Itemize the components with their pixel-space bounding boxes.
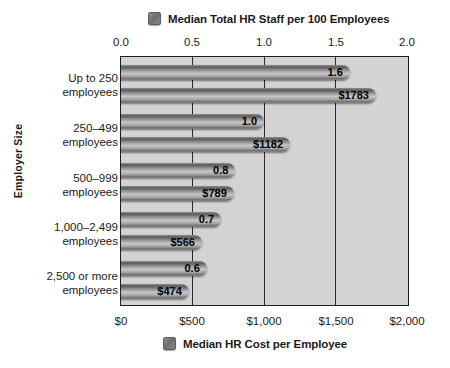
top-tick-3: 1.5 (328, 36, 344, 48)
category-label-3: 1,000–2,499 employees (23, 221, 118, 248)
category-label-1: 250–499 employees (23, 122, 118, 149)
bar-s0-c0 (120, 65, 350, 80)
legend-swatch-icon (163, 337, 176, 350)
top-axis-ticks: 0.0 0.5 1.0 1.5 2.0 (0, 36, 450, 50)
bar-value-label-s0-c1: 1.0 (242, 114, 264, 129)
chart-root: Median Total HR Staff per 100 Employees … (0, 0, 450, 368)
bar-value-label-s0-c2: 0.8 (213, 163, 235, 178)
category-label-4-line1: 2,500 or more (23, 270, 118, 284)
bottom-tick-1: $500 (179, 315, 205, 327)
bar-value-label-s0-c3: 0.7 (199, 212, 221, 227)
bar-value-label-s0-c4: 0.6 (185, 261, 207, 276)
legend-bottom-label: Median HR Cost per Employee (183, 338, 347, 350)
y-axis-title: Employer Size (12, 101, 24, 221)
bar-value-label-s1-c2: $789 (202, 186, 233, 201)
bar-value-label-s1-c0: $1783 (338, 88, 376, 103)
top-tick-1: 0.5 (184, 36, 200, 48)
category-label-0-line1: Up to 250 (23, 72, 118, 86)
category-label-0-line2: employees (23, 86, 118, 100)
category-label-3-line1: 1,000–2,499 (23, 221, 118, 235)
category-label-2-line1: 500–999 (23, 172, 118, 186)
category-label-3-line2: employees (23, 235, 118, 249)
bar-value-label-s0-c0: 1.6 (328, 65, 350, 80)
category-label-4: 2,500 or more employees (23, 270, 118, 297)
bar-value-label-s1-c1: $1182 (253, 137, 290, 152)
legend-bottom: Median HR Cost per Employee (163, 337, 347, 350)
top-tick-4: 2.0 (399, 36, 415, 48)
bar-value-label-s1-c4: $474 (157, 284, 188, 299)
top-tick-0: 0.0 (113, 36, 129, 48)
category-label-1-line1: 250–499 (23, 122, 118, 136)
bottom-tick-0: $0 (115, 315, 128, 327)
category-label-0: Up to 250 employees (23, 72, 118, 99)
category-label-1-line2: employees (23, 136, 118, 150)
plot-area: 1.61.00.80.70.6$1783$1182$789$566$474 (120, 56, 409, 306)
bottom-tick-3: $1,500 (318, 315, 353, 327)
bar-value-label-s1-c3: $566 (170, 235, 201, 250)
category-label-4-line2: employees (23, 284, 118, 298)
legend-swatch-icon (148, 12, 161, 25)
bottom-axis-ticks: $0 $500 $1,000 $1,500 $2,000 (0, 315, 450, 329)
top-tick-2: 1.0 (256, 36, 272, 48)
category-label-2: 500–999 employees (23, 172, 118, 199)
bottom-tick-4: $2,000 (389, 315, 424, 327)
legend-top-label: Median Total HR Staff per 100 Employees (168, 13, 389, 25)
bottom-tick-2: $1,000 (246, 315, 281, 327)
legend-top: Median Total HR Staff per 100 Employees (148, 12, 389, 25)
category-label-2-line2: employees (23, 186, 118, 200)
